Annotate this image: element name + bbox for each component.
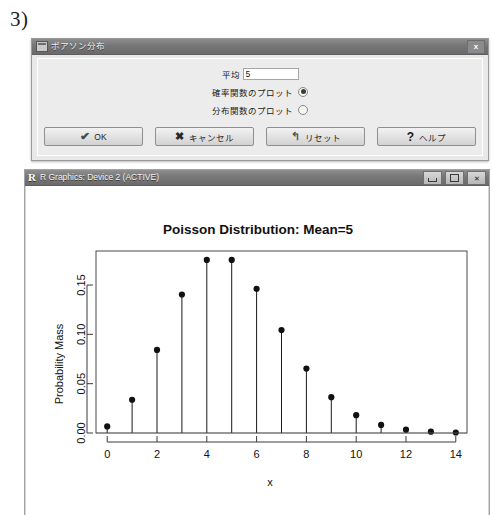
cancel-button-label: キャンセル [189, 131, 234, 143]
plot-stems [96, 257, 467, 436]
poisson-distribution-dialog: ポアソン分布 x 平均 確率関数のプロット 分布関数のプロット [31, 38, 489, 161]
x-axis-ticks: 02468101214 [104, 436, 462, 460]
x-tick-label: 0 [104, 448, 110, 460]
r-logo-icon: R [28, 172, 36, 183]
x-tick-label: 12 [400, 448, 412, 460]
window-controls: ✕ [423, 171, 486, 185]
y-axis-ticks: 0.000.050.100.15 [75, 274, 93, 443]
mean-field-row: 平均 [38, 65, 482, 82]
mean-input[interactable] [243, 68, 299, 80]
radio-distribution-function[interactable] [298, 105, 308, 115]
x-axis-label: x [267, 476, 273, 488]
cancel-button[interactable]: ✖ キャンセル [155, 127, 254, 146]
data-point [254, 286, 260, 292]
data-point [378, 422, 384, 428]
option-label-distribution-function: 分布関数のプロット [212, 104, 293, 116]
data-point [179, 291, 185, 297]
data-point [129, 397, 135, 403]
radio-probability-function[interactable] [298, 87, 308, 97]
x-tick-label: 6 [254, 448, 260, 460]
dialog-body: 平均 確率関数のプロット 分布関数のプロット ✔ OK [32, 55, 488, 160]
close-icon[interactable]: ✕ [467, 171, 486, 185]
reset-button[interactable]: ↰ リセット [266, 127, 365, 146]
data-point [353, 412, 359, 418]
data-point [204, 257, 210, 263]
y-tick-label: 0.10 [75, 324, 87, 345]
x-tick-label: 4 [204, 448, 210, 460]
data-point [154, 347, 160, 353]
x-tick-label: 10 [350, 448, 362, 460]
y-tick-label: 0.15 [75, 274, 87, 295]
dialog-button-bar: ✔ OK ✖ キャンセル ↰ リセット ? ヘルプ [44, 127, 476, 146]
option-row-distribution-function[interactable]: 分布関数のプロット [38, 101, 482, 118]
poisson-pmf-plot: Poisson Distribution: Mean=5 Probability… [26, 186, 490, 515]
help-button[interactable]: ? ヘルプ [377, 127, 476, 146]
r-window-titlebar[interactable]: R R Graphics: Device 2 (ACTIVE) ✕ [25, 170, 489, 186]
mean-label: 平均 [222, 68, 240, 80]
r-graphics-window: R R Graphics: Device 2 (ACTIVE) ✕ Poisso… [24, 169, 490, 515]
check-icon: ✔ [80, 131, 90, 142]
question-mark-icon: ? [407, 131, 414, 143]
window-icon [36, 41, 48, 52]
r-window-title: R Graphics: Device 2 (ACTIVE) [40, 173, 159, 182]
plot-title: Poisson Distribution: Mean=5 [163, 222, 354, 237]
close-icon[interactable]: x [467, 40, 485, 54]
dialog-titlebar[interactable]: ポアソン分布 x [32, 39, 488, 55]
r-plot-canvas: Poisson Distribution: Mean=5 Probability… [25, 186, 489, 515]
data-point [104, 423, 110, 429]
x-tick-label: 14 [450, 448, 462, 460]
maximize-icon[interactable] [445, 171, 464, 185]
x-mark-icon: ✖ [175, 131, 184, 142]
reset-button-label: リセット [305, 131, 341, 143]
data-point [303, 365, 309, 371]
y-tick-label: 0.00 [75, 422, 87, 443]
minimize-icon[interactable] [423, 171, 442, 185]
figure-label: 3) [10, 7, 29, 32]
data-point [229, 257, 235, 263]
help-button-label: ヘルプ [419, 131, 446, 143]
x-tick-label: 2 [154, 448, 160, 460]
ok-button-label: OK [94, 132, 106, 142]
dialog-form: 平均 確率関数のプロット 分布関数のプロット [38, 65, 482, 123]
dialog-title: ポアソン分布 [51, 42, 105, 51]
data-point [428, 429, 434, 435]
dialog-inner-panel: 平均 確率関数のプロット 分布関数のプロット ✔ OK [37, 58, 483, 156]
data-point [278, 327, 284, 333]
ok-button[interactable]: ✔ OK [44, 127, 143, 146]
y-axis-label: Probability Mass [53, 323, 65, 404]
data-point [403, 427, 409, 433]
data-point [328, 394, 334, 400]
option-label-probability-function: 確率関数のプロット [212, 86, 293, 98]
x-tick-label: 8 [303, 448, 309, 460]
option-row-probability-function[interactable]: 確率関数のプロット [38, 83, 482, 100]
undo-arrow-icon: ↰ [291, 131, 300, 142]
y-tick-label: 0.05 [75, 373, 87, 394]
